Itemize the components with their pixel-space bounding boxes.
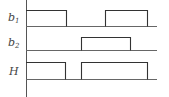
pulse — [82, 38, 131, 51]
pulse — [26, 11, 67, 27]
timing-diagram: b1 b2 H — [0, 0, 169, 97]
signal-H: H — [8, 63, 157, 80]
pulse — [106, 11, 148, 27]
signal-b1: b1 — [8, 11, 157, 27]
pulse — [82, 63, 148, 80]
pulse — [26, 63, 66, 80]
signal-b2: b2 — [8, 36, 157, 51]
signal-label-b2: b2 — [8, 36, 20, 50]
signal-label-b1: b1 — [8, 11, 20, 25]
signal-label-H: H — [8, 65, 19, 78]
